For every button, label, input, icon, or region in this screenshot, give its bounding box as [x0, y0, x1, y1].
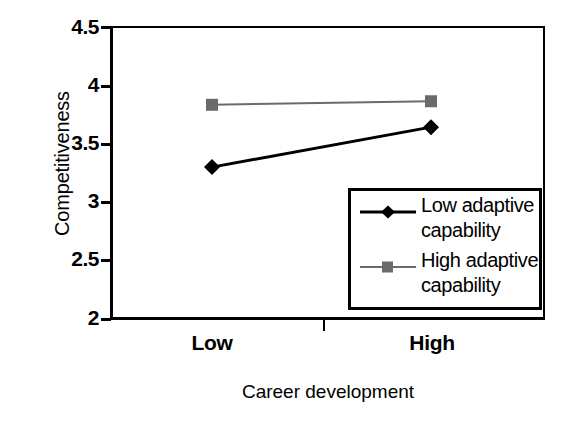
y-tick-label: 3.5 [4, 131, 99, 155]
y-tick-4: 4 [0, 73, 99, 97]
x-tick-label-high: High [372, 331, 492, 355]
y-tick-label: 2 [4, 306, 99, 330]
y-tick-3: 3 [0, 189, 99, 213]
y-tick-3.5: 3.5 [0, 131, 99, 155]
legend-label-line2: capability [421, 218, 543, 243]
y-tick-label: 3 [4, 189, 99, 213]
legend-label-line1: High adaptive [421, 249, 538, 271]
diamond-marker-icon [359, 204, 417, 220]
x-tick-mark-mid [323, 320, 325, 331]
y-tick-4.5: 4.5 [0, 15, 99, 39]
x-tick-label-low: Low [152, 331, 272, 355]
y-tick-label: 4.5 [4, 15, 99, 39]
legend-entry-low-adaptive[interactable]: Low adaptive capability [351, 195, 539, 249]
legend-label-high-adaptive: High adaptive capability [421, 248, 543, 298]
legend-label-line1: Low adaptive [421, 194, 534, 216]
interaction-plot-figure: Competitiveness 4.5 4 3.5 3 2.5 2 Low Hi… [0, 0, 563, 426]
y-tick-label: 2.5 [4, 247, 99, 271]
legend-entry-high-adaptive[interactable]: High adaptive capability [351, 250, 539, 304]
square-marker-icon [359, 259, 417, 275]
legend-label-line2: capability [421, 273, 543, 298]
y-tick-label: 4 [4, 73, 99, 97]
legend: Low adaptive capability High adaptive ca… [348, 188, 542, 310]
legend-label-low-adaptive: Low adaptive capability [421, 193, 543, 243]
y-tick-2: 2 [0, 306, 99, 330]
y-tick-2.5: 2.5 [0, 247, 99, 271]
x-axis-title: Career development [110, 381, 546, 403]
